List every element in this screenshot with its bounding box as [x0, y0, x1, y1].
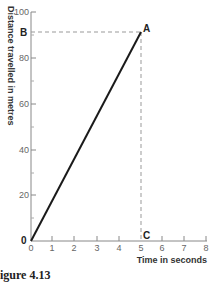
x-tick-label: 0	[28, 243, 33, 253]
figure-caption: igure 4.13	[0, 268, 50, 283]
x-tick-label: 1	[49, 243, 54, 253]
y-tick-label: 40	[19, 145, 29, 155]
x-tick-label: 2	[71, 243, 76, 253]
x-tick-label: 8	[203, 243, 208, 253]
y-ticks	[31, 12, 36, 218]
y-tick-label: 20	[19, 190, 29, 200]
x-tick-label: 7	[181, 243, 186, 253]
y-tick-label: 60	[19, 99, 29, 109]
y-tick-label: 80	[19, 53, 29, 63]
origin-label: 0	[21, 235, 27, 246]
x-tick-label: 4	[116, 243, 121, 253]
point-b-label: B	[20, 27, 27, 38]
y-axis-title: Distance travelled in metres	[6, 6, 16, 126]
x-tick-label: 5	[138, 243, 143, 253]
distance-time-chart: 100 80 60 40 20 0 1 2 3 4 5 6 7 8 A B C …	[0, 0, 223, 285]
x-tick-labels: 0 1 2 3 4 5 6 7 8	[28, 243, 208, 253]
x-ticks	[52, 236, 206, 241]
x-tick-label: 6	[159, 243, 164, 253]
x-tick-label: 3	[94, 243, 99, 253]
distance-line	[31, 32, 141, 241]
point-c-label: C	[143, 230, 150, 241]
point-a-label: A	[143, 23, 150, 34]
x-axis-title: Time in seconds	[137, 255, 207, 265]
